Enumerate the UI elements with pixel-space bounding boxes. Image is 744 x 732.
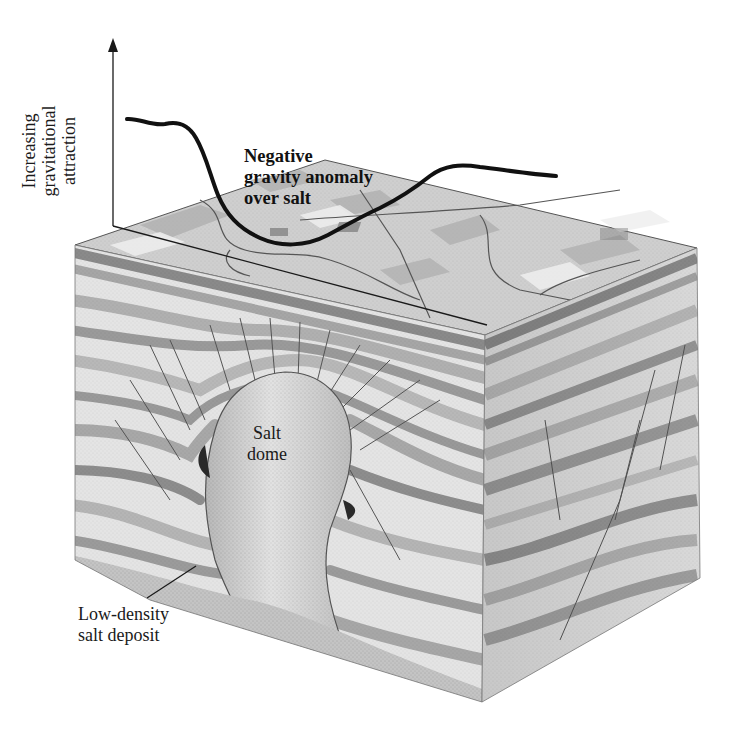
salt-dome-label-line-1: Salt xyxy=(247,423,287,444)
y-axis-label-line-3: attraction xyxy=(59,51,79,251)
anomaly-label-line-3: over salt xyxy=(244,188,373,209)
salt-deposit-label: Low-density salt deposit xyxy=(78,604,169,646)
y-axis-label: Increasing gravitational attraction xyxy=(19,51,85,251)
salt-deposit-label-line-1: Low-density xyxy=(78,604,169,625)
salt-dome-diagram: Increasing gravitational attraction Nega… xyxy=(0,0,744,732)
negative-anomaly-label: Negative gravity anomaly over salt xyxy=(244,146,373,209)
salt-dome-label-line-2: dome xyxy=(247,444,287,465)
y-axis-arrow-icon xyxy=(108,38,118,52)
y-axis-label-line-1: Increasing xyxy=(19,51,39,251)
y-axis-label-line-2: gravitational xyxy=(39,51,59,251)
anomaly-label-line-2: gravity anomaly xyxy=(244,167,373,188)
salt-dome-label: Salt dome xyxy=(247,423,287,465)
anomaly-label-line-1: Negative xyxy=(244,146,373,167)
salt-deposit-label-line-2: salt deposit xyxy=(78,625,169,646)
